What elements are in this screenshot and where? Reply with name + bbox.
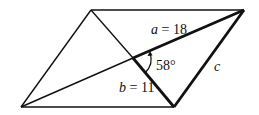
label-c: c <box>214 59 221 74</box>
label-a: a = 18 <box>151 22 187 37</box>
label-a-var: a <box>151 22 158 37</box>
diagonal-short-thin-half <box>91 10 133 58</box>
label-angle: 58° <box>156 58 176 73</box>
label-a-eq: = 18 <box>158 22 187 37</box>
angle-arc <box>145 53 151 73</box>
diagonal-long-thin-half <box>21 58 133 107</box>
diagram-svg: a = 18 58° b = 11 c <box>0 0 259 115</box>
label-b: b = 11 <box>119 80 154 95</box>
label-b-var: b <box>119 80 126 95</box>
label-b-eq: = 11 <box>126 80 154 95</box>
parallelogram-diagram: a = 18 58° b = 11 c <box>0 0 259 115</box>
